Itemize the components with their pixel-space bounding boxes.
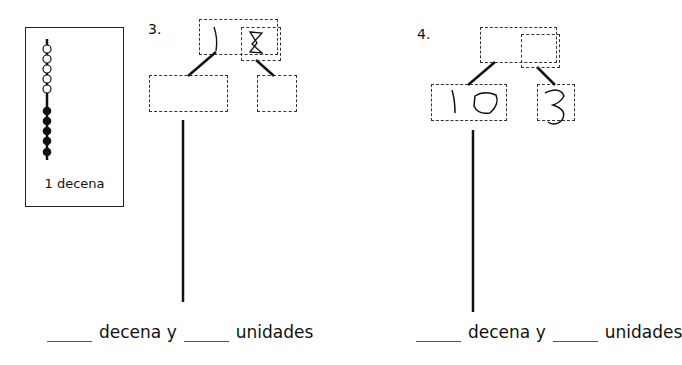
decena-label: decena y [99, 322, 177, 342]
ones-blank[interactable] [553, 340, 598, 342]
tens-blank[interactable] [47, 340, 92, 342]
top-ones-box[interactable]: 8 [241, 27, 281, 61]
top-ones-box[interactable] [521, 34, 560, 68]
unidades-label: unidades [605, 322, 682, 342]
ones-answer-box[interactable]: 3 [537, 84, 575, 121]
answer-sentence: decena yunidades [47, 322, 313, 342]
ones-blank[interactable] [184, 340, 229, 342]
decena-label: decena y [468, 322, 546, 342]
problem-number: 3. [148, 21, 161, 37]
tens-blank[interactable] [416, 340, 461, 342]
tens-answer-box[interactable]: 10 [431, 84, 507, 121]
tens-answer-box[interactable] [149, 75, 228, 112]
unidades-label: unidades [236, 322, 314, 342]
answer-sentence: decena yunidades [416, 322, 682, 342]
problem-number: 4. [417, 26, 430, 42]
ones-answer-box[interactable] [257, 75, 297, 112]
